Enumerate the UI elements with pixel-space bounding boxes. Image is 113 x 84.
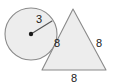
geometry-figure: 3 8 8 8 xyxy=(0,0,113,84)
circle-center-dot xyxy=(29,32,33,36)
figure-canvas: 3 8 8 8 xyxy=(0,0,113,84)
triangle-right-side-label: 8 xyxy=(96,37,102,49)
triangle-left-side-label: 8 xyxy=(54,37,60,49)
circle-radius-label: 3 xyxy=(36,13,42,25)
triangle-base-label: 8 xyxy=(71,72,77,84)
